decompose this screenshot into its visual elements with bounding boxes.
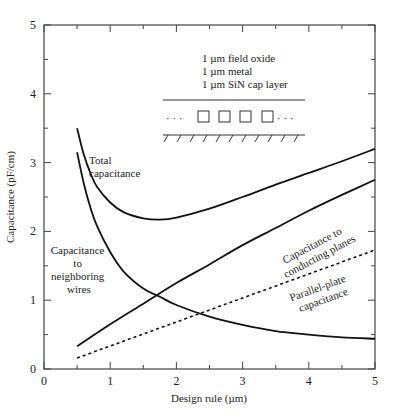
y-tick-label: 2 [30,224,36,238]
inset-ellipsis-left: · · · [166,112,183,124]
y-tick-label: 1 [30,293,36,307]
x-tick-label: 5 [372,374,378,388]
hatch-mark [216,135,220,142]
inset-diagram: 1 µm field oxide 1 µm metal 1 µm SiN cap… [163,52,305,142]
inset-wire-2 [219,111,230,122]
x-tick-label: 3 [240,374,246,388]
hatch-mark [177,135,181,142]
hatch-mark [242,135,246,142]
x-tick-label: 4 [306,374,312,388]
label-neighboring-wires: Capacitance to neighboring wires [51,244,108,295]
hatch-mark [268,135,272,142]
y-tick-label: 0 [30,362,36,376]
inset-wire-4 [262,111,273,122]
inset-ellipsis-right: · · · [277,112,294,124]
inset-wire-1 [198,111,209,122]
x-axis-title: Design rule (µm) [171,392,247,405]
hatch-mark [164,135,168,142]
hatch-mark [229,135,233,142]
x-tick-label: 0 [41,374,47,388]
y-tick-label: 4 [30,87,36,101]
capacitance-chart: 012345012345 Design rule (µm) Capacitanc… [0,0,395,419]
inset-wire-3 [240,111,251,122]
inset-ground-hatch [164,135,298,142]
x-tick-label: 2 [173,374,179,388]
y-tick-label: 5 [30,18,36,32]
y-axis-title: Capacitance (pF/cm) [4,151,17,243]
y-tick-label: 3 [30,156,36,170]
series-parallel-plate-capacitance [77,250,375,358]
x-tick-label: 1 [107,374,113,388]
inset-line-3: 1 µm SiN cap layer [202,78,288,90]
label-total-capacitance: Total capacitance [89,154,140,179]
inset-line-1: 1 µm field oxide [202,52,275,64]
hatch-mark [294,135,298,142]
inset-line-2: 1 µm metal [202,65,252,77]
hatch-mark [203,135,207,142]
hatch-mark [190,135,194,142]
hatch-mark [255,135,259,142]
hatch-mark [281,135,285,142]
